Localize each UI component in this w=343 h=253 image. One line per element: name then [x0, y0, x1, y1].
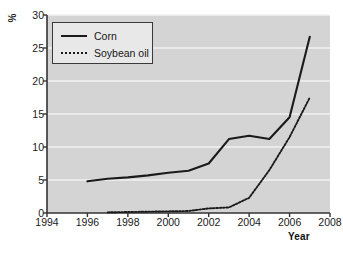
dotted-line-icon [61, 48, 87, 58]
legend-item-soybean-oil: Soybean oil [53, 44, 152, 61]
legend-label-corn: Corn [94, 30, 117, 42]
chart-legend: Corn Soybean oil [52, 22, 153, 64]
solid-line-icon [61, 31, 87, 41]
x-axis-label: Year [288, 231, 310, 242]
legend-item-corn: Corn [53, 27, 152, 44]
legend-label-soybean-oil: Soybean oil [94, 47, 149, 59]
chart-figure: % 051015202530 1994199619982000200220042… [0, 0, 343, 253]
